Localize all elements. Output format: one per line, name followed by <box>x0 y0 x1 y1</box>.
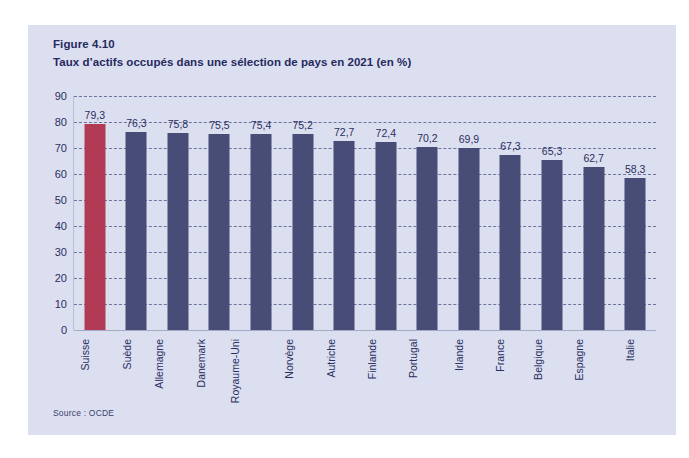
bar[interactable] <box>209 134 230 330</box>
bar-value-label: 75,2 <box>292 119 312 131</box>
y-axis-tick-label: 80 <box>55 116 67 128</box>
bar-value-label: 70,2 <box>417 132 437 144</box>
bar-group: 76,3Suède <box>116 96 158 330</box>
y-axis-tick-label: 20 <box>55 272 67 284</box>
bar[interactable] <box>251 134 272 330</box>
bar-group: 79,3Suisse <box>74 96 116 330</box>
y-axis-tick-label: 60 <box>55 168 67 180</box>
figure-number: Figure 4.10 <box>53 37 411 52</box>
bar-value-label: 69,9 <box>459 133 479 145</box>
figure-panel: Figure 4.10 Taux d’actifs occupés dans u… <box>28 25 676 435</box>
bar-value-label: 58,3 <box>625 163 645 175</box>
x-axis-category-label: Portugal <box>408 339 420 378</box>
bar-group: 72,7Autriche <box>323 96 365 330</box>
bar[interactable] <box>542 160 563 330</box>
bar-value-label: 72,4 <box>376 127 396 139</box>
x-axis-category-label: Autriche <box>325 339 337 378</box>
title-block: Figure 4.10 Taux d’actifs occupés dans u… <box>53 37 411 70</box>
bar-chart-plot-area: 0102030405060708090 79,3Suisse76,3Suède7… <box>74 96 656 330</box>
bar-group: 58,3Italie <box>614 96 656 330</box>
gridline <box>74 330 656 331</box>
bar[interactable] <box>292 134 313 330</box>
y-axis-tick-label: 90 <box>55 90 67 102</box>
x-axis-category-label: France <box>494 339 506 372</box>
x-axis-category-label: Suède <box>121 339 133 369</box>
bar-group: 69,9Irlande <box>448 96 490 330</box>
bar-value-label: 75,4 <box>251 119 271 131</box>
bar[interactable] <box>334 141 355 330</box>
x-axis-category-label: Norvège <box>283 339 295 379</box>
bar[interactable] <box>583 167 604 330</box>
y-axis-tick-label: 40 <box>55 220 67 232</box>
bar-group: 75,4Royaume-Uni <box>240 96 282 330</box>
bar-value-label: 75,5 <box>209 119 229 131</box>
y-axis-tick-label: 70 <box>55 142 67 154</box>
bar-value-label: 65,3 <box>542 145 562 157</box>
bar-value-label: 62,7 <box>583 152 603 164</box>
bar-group: 72,4Finlande <box>365 96 407 330</box>
bar-group: 75,2Norvège <box>282 96 324 330</box>
y-axis-tick-label: 0 <box>61 324 67 336</box>
source-note: Source : OCDE <box>53 408 114 418</box>
bar-value-label: 79,3 <box>85 109 105 121</box>
x-axis-category-label: Finlande <box>366 339 378 379</box>
bar-value-label: 72,7 <box>334 126 354 138</box>
bar-value-label: 75,8 <box>168 118 188 130</box>
x-axis-category-label: Belgique <box>532 339 544 380</box>
x-axis-category-label: Italie <box>624 339 636 361</box>
bar[interactable] <box>84 124 105 330</box>
bars-layer: 79,3Suisse76,3Suède75,8Allemagne75,5Dane… <box>74 96 656 330</box>
bar[interactable] <box>417 147 438 330</box>
bar[interactable] <box>375 142 396 330</box>
bar-group: 65,3Belgique <box>531 96 573 330</box>
bar[interactable] <box>500 155 521 330</box>
y-axis-tick-label: 50 <box>55 194 67 206</box>
bar[interactable] <box>126 132 147 330</box>
x-axis-category-label: Espagne <box>573 339 585 380</box>
y-axis-tick-label: 10 <box>55 298 67 310</box>
x-axis-category-label: Royaume-Uni <box>229 339 241 403</box>
bar-group: 75,5Danemark <box>199 96 241 330</box>
bar[interactable] <box>625 178 646 330</box>
x-axis-category-label: Irlande <box>453 339 465 371</box>
x-axis-category-label: Allemagne <box>153 339 165 389</box>
x-axis-category-label: Suisse <box>79 339 91 371</box>
bar-group: 62,7Espagne <box>573 96 615 330</box>
bar-group: 67,3France <box>490 96 532 330</box>
y-axis-tick-label: 30 <box>55 246 67 258</box>
bar-group: 75,8Allemagne <box>157 96 199 330</box>
page-title: Taux d’actifs occupés dans une sélection… <box>53 54 411 70</box>
bar[interactable] <box>458 148 479 330</box>
x-axis-category-label: Danemark <box>195 339 207 387</box>
bar-value-label: 67,3 <box>500 140 520 152</box>
bar[interactable] <box>167 133 188 330</box>
bar-value-label: 76,3 <box>126 117 146 129</box>
bar-group: 70,2Portugal <box>407 96 449 330</box>
